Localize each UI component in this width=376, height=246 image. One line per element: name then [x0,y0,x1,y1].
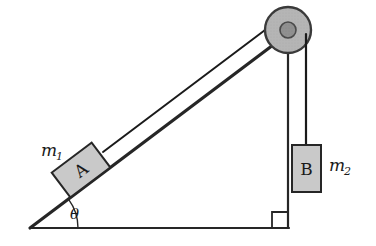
mass-one-subscript: 1 [56,150,63,163]
pulley-hub-icon [280,22,296,38]
physics-diagram-canvas: A B m 1 m 2 θ [0,0,376,246]
right-angle-marker [272,212,288,228]
rope-incline-segment [103,18,281,152]
right-angle-square [272,212,288,228]
rope-to-pulley [103,18,281,152]
block-b-letter: B [300,159,313,179]
mass-two-label-group: m 2 [329,155,351,178]
mass-two-subscript: 2 [343,165,351,178]
block-b-group: B [292,145,321,192]
inclined-plane-triangle [30,32,289,228]
incline-surface [30,36,285,228]
theta-label: θ [70,205,79,223]
mass-two-base: m [329,155,345,175]
theta-label-group: θ [70,205,79,223]
pulley-group [265,7,311,53]
inclined-plane-pulley-diagram: A B m 1 m 2 θ [0,0,376,246]
mass-one-base: m [41,140,57,160]
mass-one-label-group: m 1 [41,140,63,163]
